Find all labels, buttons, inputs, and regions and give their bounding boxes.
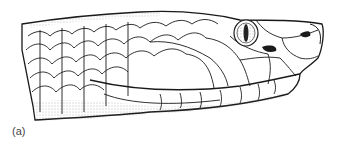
snake-head-drawing (0, 0, 342, 148)
eye (234, 20, 258, 46)
vertical-pupil (244, 24, 249, 42)
snake-head-illustration (0, 0, 342, 148)
panel-label: (a) (12, 125, 25, 137)
